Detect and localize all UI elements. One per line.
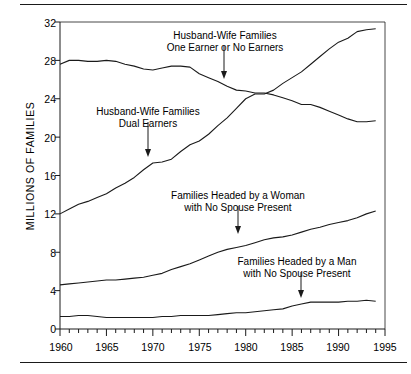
series-line-3 <box>60 300 376 317</box>
series-line-1 <box>60 29 376 214</box>
series-line-2 <box>60 211 376 285</box>
arrow-one-earner-head <box>221 71 227 79</box>
data-series <box>60 29 376 318</box>
axes-lines <box>60 22 385 329</box>
plot-area <box>0 0 411 374</box>
tick-marks <box>55 22 385 336</box>
arrow-man-headed-head <box>298 290 304 298</box>
arrow-dual-earners-head <box>145 149 151 157</box>
arrow-woman-headed-head <box>235 226 241 234</box>
chart-figure: MILLIONS OF FAMILIES 32 28 24 20 16 12 8… <box>0 0 411 374</box>
annotation-arrows <box>145 46 304 298</box>
series-line-0 <box>60 60 376 121</box>
